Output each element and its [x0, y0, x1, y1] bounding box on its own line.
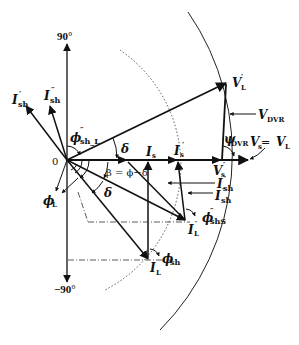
svg-text:L: L	[52, 200, 57, 209]
label-origin: 0	[52, 156, 58, 167]
svg-text:′: ′	[241, 71, 243, 81]
svg-text:sh_L: sh_L	[80, 136, 100, 146]
svg-text:′: ′	[224, 173, 226, 183]
arc-phi-sh	[150, 249, 159, 256]
svg-text:I: I	[145, 145, 152, 159]
label-vs-eq-vl: V s = V L	[250, 135, 290, 151]
svg-text:L: L	[285, 142, 290, 151]
vs-prime-arrowhead	[212, 156, 222, 164]
label-delta-top: δ	[120, 142, 129, 156]
label-phi-sh-l: ϕ sh_L ″	[70, 124, 100, 146]
label-vl-prime: V L ′	[232, 71, 246, 92]
svg-text:sh: sh	[18, 99, 29, 109]
svg-text:I: I	[11, 93, 18, 107]
label-beta: β = ϕ−δ	[106, 167, 148, 178]
label-phi-l: ϕ L	[43, 194, 57, 209]
label-phi-shs: ϕ shS ″	[202, 205, 226, 226]
svg-text:sh: sh	[50, 95, 61, 105]
is-arrowhead	[118, 156, 128, 164]
svg-text:L: L	[194, 229, 199, 238]
svg-text:″: ″	[51, 84, 55, 94]
phasor-vdvr	[222, 84, 226, 160]
label-il: I L	[149, 261, 161, 277]
svg-text:I: I	[214, 189, 221, 203]
svg-text:′: ′	[195, 218, 197, 228]
svg-text:I: I	[149, 261, 156, 275]
svg-text:′: ′	[223, 159, 225, 169]
label-ish-dprime-left: I sh ″	[43, 84, 61, 105]
svg-text:′: ′	[19, 88, 21, 98]
label-minus-90: −90°	[54, 283, 76, 295]
phi-l-arrow-2	[62, 178, 78, 193]
svg-text:s: s	[152, 151, 156, 160]
svg-text:L: L	[241, 83, 246, 92]
svg-text:″: ″	[222, 185, 226, 195]
svg-text:I: I	[173, 144, 180, 158]
label-vdvr: V DVR	[258, 108, 284, 124]
svg-text:shS: shS	[210, 216, 226, 226]
svg-text:″: ″	[210, 205, 214, 215]
label-90: 90°	[57, 30, 72, 42]
svg-text:I: I	[187, 223, 194, 237]
label-ish-prime-left: I sh ′	[11, 88, 29, 109]
svg-text:sh: sh	[170, 257, 181, 267]
phasor-diagram: 90° −90° 0 I sh ′ I sh ″ ϕ sh_L ″ δ I s …	[0, 0, 299, 345]
label-delta-bottom: δ	[103, 186, 112, 200]
arc-delta-bottom	[92, 181, 103, 193]
phasor-ish-prime	[26, 106, 67, 160]
svg-text:L: L	[156, 268, 161, 277]
svg-text:I: I	[43, 89, 50, 103]
svg-text:=: =	[261, 136, 270, 149]
label-phi-sh: ϕ sh	[162, 252, 181, 267]
svg-text:′: ′	[182, 139, 184, 149]
phasor-is-prime	[178, 162, 185, 220]
il-prime-ref-vert	[78, 192, 88, 222]
svg-text:″: ″	[80, 124, 84, 134]
label-il-prime: I L ′	[187, 218, 199, 238]
arc-delta-top	[113, 138, 117, 158]
svg-text:s: s	[180, 150, 184, 159]
phasor-ish-dprime	[50, 106, 67, 160]
arc-phi-shs	[186, 209, 195, 216]
svg-text:sh: sh	[221, 195, 232, 205]
svg-text:DVR: DVR	[267, 115, 284, 124]
svg-text:DVR: DVR	[231, 139, 248, 148]
label-is: I s	[145, 145, 156, 160]
label-psi-dvr: ψ DVR	[224, 132, 248, 148]
